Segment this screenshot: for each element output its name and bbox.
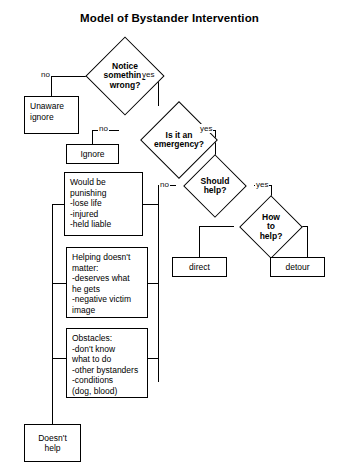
node-unaware-ignore-label: Unaware ignore bbox=[30, 101, 64, 122]
edge-left-trunk-to-obstacles bbox=[52, 358, 67, 359]
edge-trunk-to-punishing bbox=[142, 204, 159, 205]
edge-how-to-help-direct-vertical bbox=[199, 226, 200, 258]
node-direct[interactable]: direct bbox=[172, 257, 227, 277]
node-direct-label: direct bbox=[189, 262, 210, 273]
node-obstacles-label: Obstacles: -don't know what to do -other… bbox=[72, 333, 138, 396]
edge-label-notice-no: no bbox=[40, 70, 51, 79]
node-helping-doesnt-matter-label: Helping doesn't matter: -deserves what h… bbox=[72, 252, 131, 315]
node-helping-doesnt-matter[interactable]: Helping doesn't matter: -deserves what h… bbox=[66, 247, 148, 318]
node-ignore[interactable]: Ignore bbox=[66, 144, 119, 164]
node-would-be-punishing-label: Would be punishing -lose life -injured -… bbox=[70, 177, 111, 230]
edge-label-should-help-yes: yes bbox=[255, 180, 269, 189]
edge-left-trunk-to-helping bbox=[52, 283, 67, 284]
node-would-be-punishing[interactable]: Would be punishing -lose life -injured -… bbox=[64, 172, 143, 236]
edge-trunk-to-helping bbox=[148, 283, 159, 284]
node-ignore-label: Ignore bbox=[80, 149, 104, 160]
edge-emergency-no-vertical bbox=[92, 130, 93, 145]
edge-label-emergency-no: no bbox=[98, 124, 109, 133]
edge-label-should-help-no: no bbox=[159, 180, 170, 189]
decision-how-to-help-label: How to help? bbox=[233, 196, 309, 258]
page-title: Model of Bystander Intervention bbox=[0, 12, 339, 24]
edge-label-notice-yes: yes bbox=[141, 70, 155, 79]
decision-how-to-help[interactable]: How to help? bbox=[233, 196, 309, 258]
node-obstacles[interactable]: Obstacles: -don't know what to do -other… bbox=[66, 328, 148, 398]
edge-label-emergency-yes: yes bbox=[199, 124, 213, 133]
node-unaware-ignore[interactable]: Unaware ignore bbox=[24, 96, 79, 134]
node-doesnt-help-label: Doesn't help bbox=[38, 433, 67, 454]
edge-left-trunk bbox=[52, 204, 53, 425]
edge-notice-no-vertical bbox=[51, 76, 52, 97]
edge-trunk-to-obstacles bbox=[148, 358, 159, 359]
node-doesnt-help[interactable]: Doesn't help bbox=[24, 424, 81, 462]
node-detour[interactable]: detour bbox=[270, 257, 325, 277]
edge-how-to-help-direct-horizontal bbox=[199, 226, 234, 227]
node-detour-label: detour bbox=[285, 262, 309, 273]
